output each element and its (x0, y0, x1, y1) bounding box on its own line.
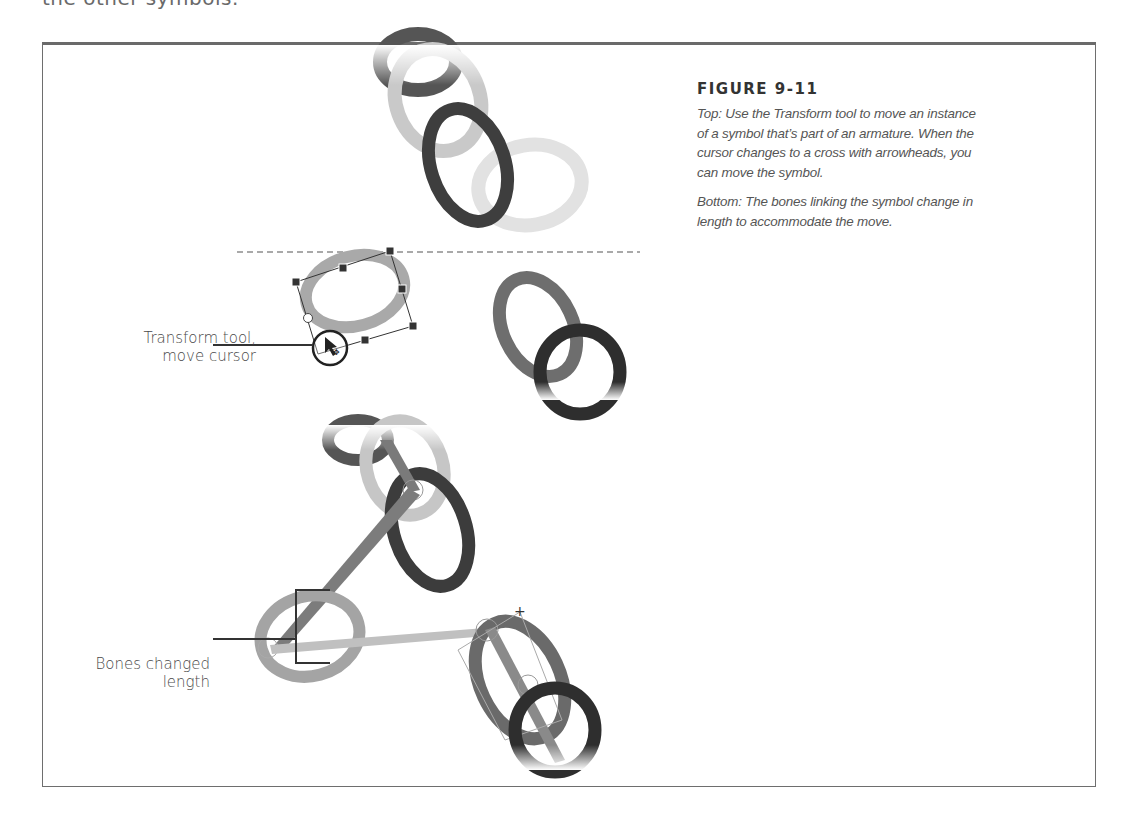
ring-bottom-left (251, 584, 368, 687)
move-cursor-icon: ✥ (313, 331, 347, 365)
callout-bones-line2: length (60, 673, 210, 691)
callout-label-bones-changed: Bones changed length (60, 655, 210, 691)
figure-title: FIGURE 9-11 (697, 80, 987, 98)
svg-text:✥: ✥ (333, 348, 340, 357)
callout-label-transform-tool: Transform tool, move cursor (70, 329, 256, 365)
transform-pivot-point (304, 314, 313, 323)
figure-caption: FIGURE 9-11 Top: Use the Transform tool … (697, 80, 987, 241)
ring-dark (415, 98, 521, 231)
ring-selected (298, 244, 413, 337)
caption-bottom-text: Bottom: The bones linking the symbol cha… (697, 192, 987, 231)
callout-transform-line2: move cursor (70, 347, 256, 365)
ring-bottom-dark (378, 464, 482, 597)
callout-transform-line1: Transform tool, (70, 329, 256, 347)
top-illustration: ✥ (237, 34, 660, 414)
bone-long-diagonal (272, 488, 420, 652)
crosshair-icon: + (514, 603, 526, 619)
bottom-illustration: + (251, 411, 630, 772)
callout-bones-line1: Bones changed (60, 655, 210, 673)
bone-light-horizontal (270, 628, 487, 654)
caption-top-text: Top: Use the Transform tool to move an i… (697, 104, 987, 182)
